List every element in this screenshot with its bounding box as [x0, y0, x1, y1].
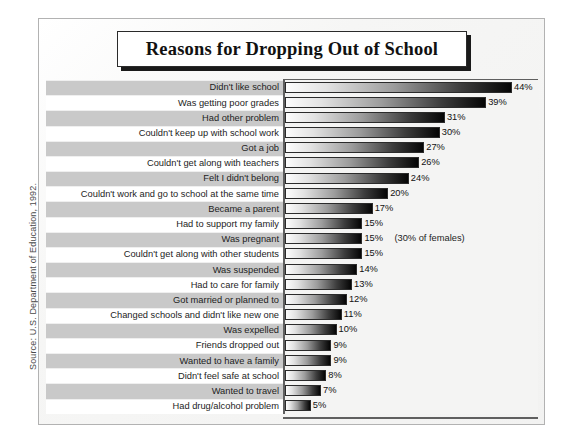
bar	[285, 203, 373, 214]
bar	[285, 279, 352, 290]
bar-value-label: 13%	[352, 280, 373, 289]
row-label-cell: Was pregnant	[46, 232, 283, 247]
chart-row: Friends dropped out9%	[46, 338, 538, 353]
row-label: Couldn't work and go to school at the sa…	[81, 190, 279, 199]
row-label-cell: Had drug/alcohol problem	[46, 399, 283, 414]
row-label-cell: Was suspended	[46, 262, 283, 277]
bar	[285, 142, 424, 153]
chart-row: Had to care for family13%	[46, 277, 538, 292]
chart-row: Had drug/alcohol problem5%	[46, 399, 538, 414]
bar	[285, 112, 445, 123]
chart-row: Was expelled10%	[46, 323, 538, 338]
row-label-cell: Was getting poor grades	[46, 95, 283, 110]
row-label: Didn't feel safe at school	[178, 372, 279, 381]
row-plot-cell: 9%	[283, 338, 538, 353]
bar-value-label: 44%	[512, 83, 533, 92]
bar-value-label: 14%	[357, 265, 378, 274]
bar-value-label: 9%	[331, 341, 346, 350]
chart-row: Was getting poor grades39%	[46, 95, 538, 110]
bar	[285, 218, 362, 229]
chart-row: Changed schools and didn't like new one1…	[46, 308, 538, 323]
row-label-cell: Had to support my family	[46, 217, 283, 232]
chart-row: Had other problem31%	[46, 110, 538, 125]
row-plot-cell: 14%	[283, 262, 538, 277]
bar-value-label: 12%	[347, 295, 368, 304]
row-plot-cell: 20%	[283, 186, 538, 201]
bar	[285, 127, 440, 138]
row-plot-cell: 5%	[283, 399, 538, 414]
bar	[285, 370, 326, 381]
bar	[285, 157, 419, 168]
bar-value-label: 11%	[342, 311, 362, 320]
title-plate: Reasons for Dropping Out of School	[117, 31, 467, 67]
row-label-cell: Couldn't work and go to school at the sa…	[46, 186, 283, 201]
chart-figure: Source: U.S. Department of Education, 19…	[0, 0, 564, 447]
row-label: Had to care for family	[191, 281, 279, 290]
row-plot-cell: 12%	[283, 292, 538, 307]
bar	[285, 340, 331, 351]
row-label: Had other problem	[202, 114, 279, 123]
row-plot-cell: 24%	[283, 171, 538, 186]
row-label-cell: Couldn't keep up with school work	[46, 126, 283, 141]
bar-value-label: 24%	[409, 174, 430, 183]
bar-value-label: 9%	[331, 356, 346, 365]
row-label-cell: Didn't feel safe at school	[46, 368, 283, 383]
chart-row: Couldn't work and go to school at the sa…	[46, 186, 538, 201]
bar	[285, 355, 331, 366]
row-label: Had drug/alcohol problem	[173, 402, 279, 411]
bar-value-label: 10%	[337, 326, 358, 335]
bar-value-label: 39%	[486, 98, 507, 107]
bar	[285, 400, 311, 411]
row-plot-cell: 10%	[283, 323, 538, 338]
row-label-cell: Became a parent	[46, 201, 283, 216]
bar-value-label: 8%	[326, 371, 341, 380]
bar	[285, 173, 409, 184]
row-label-cell: Was expelled	[46, 323, 283, 338]
bar-value-label: 5%	[311, 402, 326, 411]
row-plot-cell: 39%	[283, 95, 538, 110]
row-label-cell: Friends dropped out	[46, 338, 283, 353]
row-label-cell: Got married or planned to	[46, 292, 283, 307]
chart-row: Had to support my family15%	[46, 217, 538, 232]
chart-row: Wanted to have a family9%	[46, 353, 538, 368]
bar-value-label: 20%	[388, 189, 409, 198]
chart-row: Got married or planned to12%	[46, 292, 538, 307]
row-label-cell: Couldn't get along with other students	[46, 247, 283, 262]
chart-row: Was pregnant15%(30% of females)	[46, 232, 538, 247]
row-label: Felt I didn't belong	[203, 174, 279, 183]
bar	[285, 324, 337, 335]
row-label: Friends dropped out	[196, 341, 279, 350]
poster-frame: Reasons for Dropping Out of School Didn'…	[38, 18, 545, 425]
row-label-cell: Felt I didn't belong	[46, 171, 283, 186]
row-label: Wanted to travel	[212, 387, 279, 396]
row-plot-cell: 11%	[283, 308, 538, 323]
row-plot-cell: 15%	[283, 217, 538, 232]
row-plot-cell: 15%(30% of females)	[283, 232, 538, 247]
row-label-cell: Had to care for family	[46, 277, 283, 292]
row-label: Became a parent	[208, 205, 279, 214]
chart-row: Couldn't keep up with school work30%	[46, 126, 538, 141]
bar-value-label: 31%	[445, 113, 466, 122]
row-plot-cell: 44%	[283, 80, 538, 95]
row-label: Didn't like school	[210, 83, 279, 92]
row-label-cell: Wanted to travel	[46, 383, 283, 398]
chart-row: Couldn't get along with other students15…	[46, 247, 538, 262]
bar-value-label: 17%	[373, 204, 394, 213]
row-label: Was pregnant	[221, 235, 279, 244]
bar	[285, 233, 362, 244]
row-label: Was expelled	[224, 326, 279, 335]
row-plot-cell: 15%	[283, 247, 538, 262]
bar-value-label: 7%	[321, 386, 336, 395]
bar	[285, 188, 388, 199]
row-plot-cell: 31%	[283, 110, 538, 125]
bar	[285, 294, 347, 305]
plot-bottom-rule	[283, 417, 538, 419]
row-plot-cell: 9%	[283, 353, 538, 368]
bar-value-label: 15%	[362, 250, 383, 259]
row-label-cell: Couldn't get along with teachers	[46, 156, 283, 171]
row-label-cell: Wanted to have a family	[46, 353, 283, 368]
row-label: Was getting poor grades	[178, 99, 279, 108]
bar-value-label: 15%	[362, 219, 383, 228]
chart-row: Wanted to travel7%	[46, 383, 538, 398]
row-plot-cell: 27%	[283, 141, 538, 156]
